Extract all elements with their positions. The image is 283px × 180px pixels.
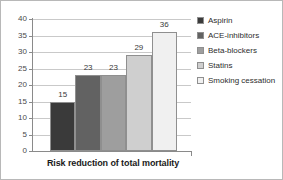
y-axis-tick [29,19,33,20]
legend-item[interactable]: Smoking cessation [197,73,283,88]
y-axis-tick [29,135,33,136]
legend-swatch-ace-inhibitors [197,32,204,39]
legend-item-label: Beta-blockers [208,46,257,55]
bar-value-label: 23 [101,64,126,72]
bar [75,75,100,151]
legend-item[interactable]: Statins [197,58,283,73]
legend-item-label: ACE-inhibitors [208,31,259,40]
y-axis-tick [29,85,33,86]
chart-legend: AspirinACE-inhibitorsBeta-blockersStatin… [197,13,283,88]
y-axis-tick-label: 0 [5,147,27,155]
y-axis-tick [29,52,33,53]
y-axis-tick [29,69,33,70]
legend-swatch-aspirin [197,17,204,24]
y-axis-tick-label: 25 [5,65,27,73]
y-axis-tick [29,36,33,37]
x-axis-title: Risk reduction of total mortality [33,158,193,168]
legend-item[interactable]: Beta-blockers [197,43,283,58]
bar-value-label: 15 [50,91,75,99]
bar [50,102,75,152]
legend-item[interactable]: Aspirin [197,13,283,28]
y-axis-tick-label: 10 [5,114,27,122]
bar [101,75,126,151]
y-axis-tick [29,151,33,152]
y-axis-tick-label: 15 [5,98,27,106]
x-axis-line [32,151,192,152]
legend-item-label: Statins [208,61,232,70]
y-axis-tick-label: 35 [5,32,27,40]
bar-value-label: 36 [152,21,177,29]
legend-swatch-statins [197,62,204,69]
y-axis-tick-labels: 0510152025303540 [1,1,27,180]
bar-value-label: 29 [126,44,151,52]
y-axis-tick [29,102,33,103]
y-axis-tick [29,118,33,119]
legend-swatch-beta-blockers [197,47,204,54]
legend-item-label: Aspirin [208,16,232,25]
legend-item[interactable]: ACE-inhibitors [197,28,283,43]
legend-item-label: Smoking cessation [208,76,275,85]
bar-value-label: 23 [75,64,100,72]
x-axis-end-tick [191,152,192,156]
bar [152,32,177,151]
legend-swatch-smoking-cessation [197,77,204,84]
y-axis-tick-label: 30 [5,48,27,56]
y-axis-tick-label: 20 [5,81,27,89]
y-axis-tick-label: 40 [5,15,27,23]
bar-series: 1523232936 [33,19,191,151]
y-axis-tick-label: 5 [5,131,27,139]
bar [126,55,151,151]
bar-chart-figure: 0510152025303540 1523232936 Risk reducti… [0,0,283,180]
